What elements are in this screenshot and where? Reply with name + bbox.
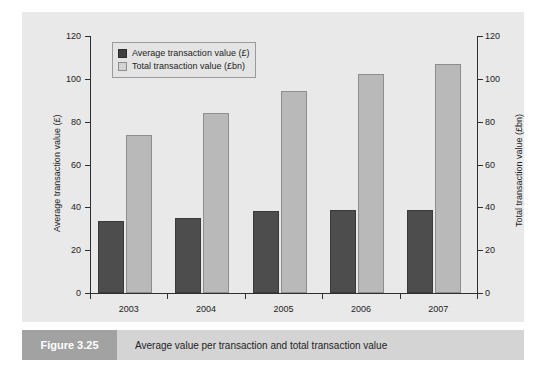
- x-axis-label-2003: 2003: [109, 304, 149, 314]
- right-axis-tick: [478, 250, 483, 251]
- x-axis-label-2006: 2006: [341, 304, 381, 314]
- bar-2007-series-1: [407, 210, 433, 293]
- right-axis-tick-label: 100: [485, 75, 500, 84]
- right-axis-tick-label: 60: [485, 161, 495, 170]
- light-swatch-icon: [118, 62, 127, 71]
- chart-panel: Average transaction value (£) Total tran…: [22, 12, 524, 322]
- left-axis-tick-label: 0: [76, 289, 81, 298]
- left-axis-tick-label: 80: [71, 118, 81, 127]
- left-axis-tick-label: 60: [71, 161, 81, 170]
- right-axis-tick-label: 40: [485, 203, 495, 212]
- right-axis-tick: [478, 293, 483, 294]
- legend-item-label: Average transaction value (£): [132, 48, 249, 59]
- x-axis-tick: [477, 294, 478, 299]
- right-axis-tick: [478, 79, 483, 80]
- bar-2003-series-1: [98, 221, 124, 293]
- x-axis-line: [90, 293, 478, 294]
- x-axis-label-2007: 2007: [418, 304, 458, 314]
- left-axis-tick-label: 120: [66, 32, 81, 41]
- right-axis-tick-label: 120: [485, 32, 500, 41]
- bar-2005-series-1: [253, 211, 279, 293]
- legend-item-label: Total transaction value (£bn): [132, 61, 245, 72]
- figure-number-tag: Figure 3.25: [22, 330, 117, 360]
- right-axis-tick: [478, 122, 483, 123]
- figure-caption-text: Average value per transaction and total …: [117, 330, 524, 360]
- dark-swatch-icon: [118, 49, 127, 58]
- x-axis-tick: [167, 294, 168, 299]
- bar-2003-series-2: [126, 135, 152, 293]
- right-axis-tick-label: 80: [485, 118, 495, 127]
- bar-2007-series-2: [435, 64, 461, 293]
- right-axis-tick: [478, 165, 483, 166]
- left-axis-tick-label: 100: [66, 75, 81, 84]
- x-axis-tick: [400, 294, 401, 299]
- bar-2004-series-1: [175, 218, 201, 293]
- right-axis-tick-label: 20: [485, 246, 495, 255]
- chart-legend: Average transaction value (£) Total tran…: [112, 42, 256, 78]
- left-axis-title: Average transaction value (£): [52, 115, 62, 232]
- x-axis-tick: [90, 294, 91, 299]
- right-axis-tick: [478, 207, 483, 208]
- bar-2004-series-2: [203, 113, 229, 293]
- right-axis-title: Total transaction value (£bn): [514, 114, 524, 227]
- legend-item: Total transaction value (£bn): [118, 60, 249, 73]
- legend-item: Average transaction value (£): [118, 47, 249, 60]
- bar-2006-series-1: [330, 210, 356, 293]
- x-axis-tick: [322, 294, 323, 299]
- x-axis-tick: [245, 294, 246, 299]
- x-axis-label-2005: 2005: [264, 304, 304, 314]
- figure-screenshot: Average transaction value (£) Total tran…: [0, 0, 547, 384]
- figure-caption-bar: Figure 3.25 Average value per transactio…: [22, 330, 524, 360]
- right-axis-tick-label: 0: [485, 289, 490, 298]
- left-axis-tick-label: 40: [71, 203, 81, 212]
- bar-2006-series-2: [358, 74, 384, 293]
- x-axis-label-2004: 2004: [186, 304, 226, 314]
- right-axis-tick: [478, 36, 483, 37]
- plot-wrapper: Average transaction value (£) Total tran…: [22, 12, 524, 322]
- left-axis-tick-label: 20: [71, 246, 81, 255]
- bar-2005-series-2: [281, 91, 307, 293]
